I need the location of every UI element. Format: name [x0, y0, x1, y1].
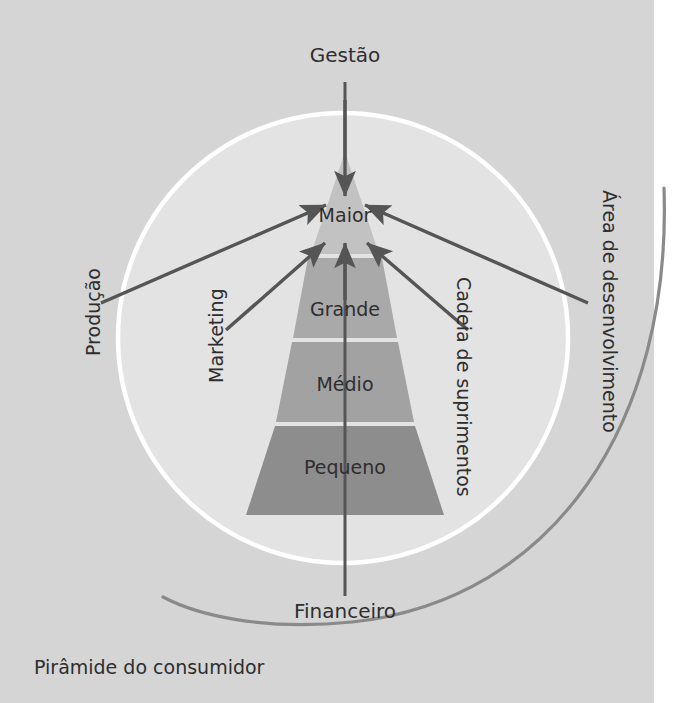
right-margin-strip	[654, 0, 674, 703]
label-producao: Produção	[84, 268, 103, 356]
tier-label-maior: Maior	[319, 206, 372, 225]
diagram-canvas: Gestão Financeiro Produção Marketing Cad…	[0, 0, 674, 703]
label-marketing: Marketing	[207, 288, 226, 383]
tier-label-pequeno: Pequeno	[304, 458, 386, 477]
label-financeiro: Financeiro	[294, 601, 396, 621]
label-cadeia-suprimentos: Cadeia de suprimentos	[454, 277, 473, 497]
label-area-desenvolvimento: Área de desenvolvimento	[600, 190, 619, 433]
tier-label-grande: Grande	[310, 300, 380, 319]
tier-label-medio: Médio	[316, 375, 373, 394]
diagram-caption: Pirâmide do consumidor	[34, 658, 264, 677]
label-gestao: Gestão	[310, 45, 381, 65]
